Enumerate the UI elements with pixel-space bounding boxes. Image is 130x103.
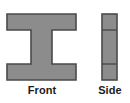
side-bar-outline [102,14,117,80]
i-beam-outline [7,14,76,80]
side-view-shape [101,13,118,81]
orthographic-views-diagram: Front Side [0,0,130,103]
i-beam-icon [6,13,77,81]
front-view-label: Front [0,84,84,97]
segmented-bar-icon [101,13,118,81]
side-view-label: Side [92,84,128,97]
front-view-shape [6,13,77,81]
